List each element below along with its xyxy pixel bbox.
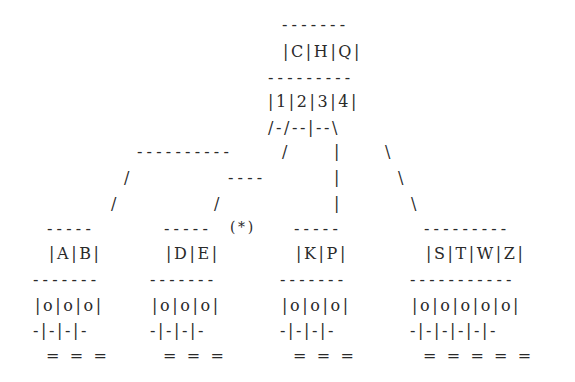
leaf-stwz-pointers: -|-|-|-|-|- xyxy=(410,322,498,340)
connector-slash: / xyxy=(214,195,222,213)
connector-slash: / xyxy=(124,169,132,187)
leaf-ab-eq: = = = xyxy=(46,347,109,365)
leaf-stwz-eq: = = = = = xyxy=(423,347,534,365)
leaf-kp-keys: |K|P| xyxy=(296,245,348,263)
leaf-de-marker: (*) xyxy=(230,218,256,236)
leaf-kp-eq: = = = xyxy=(293,347,356,365)
leaf-de-keys: |D|E| xyxy=(166,245,220,263)
leaf-de-slots: |o|o|o| xyxy=(152,297,221,315)
leaf-ab-top-border: ----- xyxy=(47,220,95,238)
connector-dashes: ---- xyxy=(228,169,266,187)
connector-left-dashes: ---------- xyxy=(137,143,233,161)
root-mid-border: --------- xyxy=(268,69,354,87)
leaf-ab-slots: |o|o|o| xyxy=(35,297,104,315)
connector-pipe: | xyxy=(334,143,342,161)
leaf-kp-top-border: ----- xyxy=(294,220,342,238)
leaf-de-mid-border: ------- xyxy=(150,271,217,289)
leaf-de-top-border: ----- xyxy=(164,220,212,238)
connector-slash: / xyxy=(111,195,119,213)
leaf-ab-pointers: -|-|-|- xyxy=(33,322,89,340)
leaf-ab-keys: |A|B| xyxy=(49,245,101,263)
leaf-de-pointers: -|-|-|- xyxy=(150,322,206,340)
root-top-border: ------- xyxy=(282,16,349,34)
connector-slash: / xyxy=(282,143,290,161)
leaf-de-eq: = = = xyxy=(163,347,226,365)
leaf-stwz-top-border: --------- xyxy=(424,220,510,238)
root-pointers: |1|2|3|4| xyxy=(268,93,359,111)
leaf-kp-slots: |o|o|o| xyxy=(282,297,351,315)
root-branches: /-/--|--\ xyxy=(268,119,340,137)
leaf-ab-mid-border: ------- xyxy=(33,271,100,289)
leaf-stwz-mid-border: ----------- xyxy=(410,271,516,289)
connector-backslash: \ xyxy=(398,169,406,187)
leaf-stwz-keys: |S|T|W|Z| xyxy=(426,245,526,263)
connector-backslash: \ xyxy=(385,143,393,161)
connector-pipe: | xyxy=(334,195,342,213)
root-keys: |C|H|Q| xyxy=(283,43,362,61)
leaf-stwz-slots: |o|o|o|o|o| xyxy=(412,297,521,315)
leaf-kp-mid-border: ------- xyxy=(280,271,347,289)
connector-backslash: \ xyxy=(411,195,419,213)
leaf-kp-pointers: -|-|-|- xyxy=(280,322,336,340)
connector-pipe: | xyxy=(334,169,342,187)
